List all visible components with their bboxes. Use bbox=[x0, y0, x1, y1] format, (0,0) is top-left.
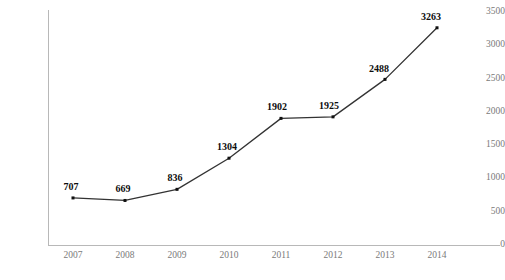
plot-area bbox=[0, 0, 505, 280]
data-markers bbox=[72, 26, 439, 202]
data-marker bbox=[228, 157, 231, 160]
data-marker bbox=[384, 78, 387, 81]
data-marker bbox=[176, 188, 179, 191]
data-marker bbox=[280, 117, 283, 120]
data-marker bbox=[124, 199, 127, 202]
data-marker bbox=[72, 196, 75, 199]
data-point-label: 1304 bbox=[217, 142, 237, 152]
line-chart: 0500100015002000250030003500 20072008200… bbox=[0, 0, 505, 280]
data-point-label: 669 bbox=[116, 184, 131, 194]
data-marker bbox=[332, 115, 335, 118]
data-marker bbox=[436, 26, 439, 29]
data-point-label: 3263 bbox=[421, 12, 441, 22]
footer-clipped-strip bbox=[0, 272, 505, 280]
data-point-label: 836 bbox=[168, 173, 183, 183]
data-point-label: 707 bbox=[64, 182, 79, 192]
data-point-label: 2488 bbox=[369, 64, 389, 74]
data-line bbox=[73, 28, 437, 201]
data-point-label: 1925 bbox=[319, 101, 339, 111]
data-point-label: 1902 bbox=[267, 102, 287, 112]
